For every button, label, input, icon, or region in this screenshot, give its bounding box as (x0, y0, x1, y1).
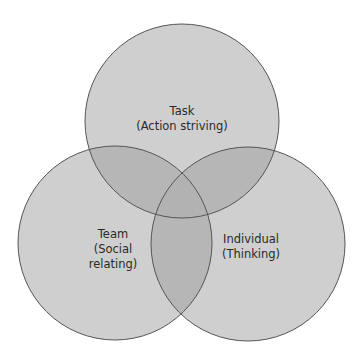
individual-title: Individual (223, 232, 279, 246)
individual-subtitle: (Thinking) (222, 247, 280, 261)
team-subtitle-line2: relating) (89, 257, 138, 271)
team-subtitle-line1: (Social (94, 242, 133, 256)
venn-diagram: Task (Action striving) Team (Social rela… (0, 0, 364, 357)
task-title: Task (169, 104, 195, 118)
task-subtitle: (Action striving) (136, 119, 228, 133)
team-title: Team (97, 227, 128, 241)
